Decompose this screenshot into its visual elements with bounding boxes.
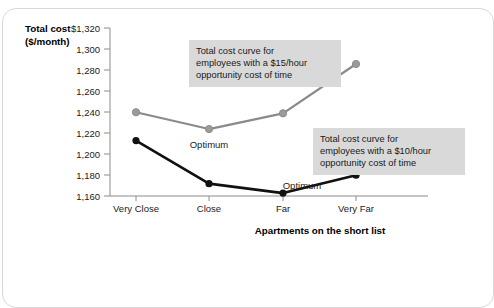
y-axis-title-line1: Total cost — [25, 23, 71, 34]
x-tick-label-very-close: Very Close — [113, 203, 159, 214]
y-tick-label: $1,320 — [71, 23, 100, 34]
x-axis-ticks — [136, 196, 356, 201]
y-tick-label: 1,160 — [76, 191, 100, 202]
annotation-callout-10-dollar: Total cost curve for employees with a $1… — [313, 128, 465, 175]
annotation-callout-15-dollar: Total cost curve for employees with a $1… — [189, 40, 341, 87]
x-axis-title: Apartments on the short list — [255, 225, 386, 236]
optimum-label-10-dollar: Optimum — [283, 180, 322, 191]
y-tick-label: 1,260 — [76, 86, 100, 97]
x-tick-label-very-far: Very Far — [338, 203, 374, 214]
y-tick-label: 1,220 — [76, 128, 100, 139]
y-axis-ticks — [104, 28, 110, 196]
x-tick-label-close: Close — [197, 203, 221, 214]
optimum-label-15-dollar: Optimum — [190, 139, 229, 150]
y-tick-label: 1,200 — [76, 149, 100, 160]
y-axis-title-line2: ($/month) — [25, 36, 70, 47]
x-tick-label-far: Far — [276, 203, 290, 214]
y-tick-label: 1,300 — [76, 44, 100, 55]
y-tick-label: 1,280 — [76, 65, 100, 76]
y-tick-label: 1,180 — [76, 170, 100, 181]
y-axis-tick-labels: $1,320 1,300 1,280 1,260 1,240 1,220 1,2… — [71, 23, 100, 202]
x-axis-category-labels: Very Close Close Far Very Far — [113, 203, 374, 214]
y-tick-label: 1,240 — [76, 107, 100, 118]
